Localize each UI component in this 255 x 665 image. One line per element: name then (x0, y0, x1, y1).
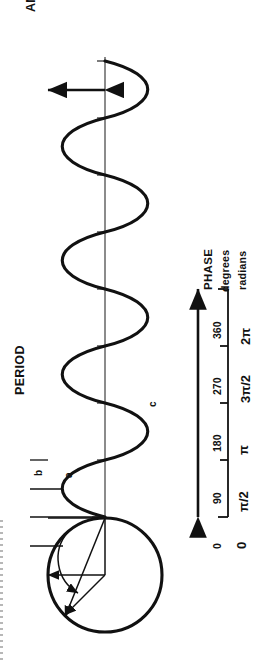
radian-tick-2pi: 2π (238, 328, 253, 345)
period-label: PERIOD (13, 345, 27, 395)
degree-tick-270: 270 (211, 377, 223, 395)
phase-label: PHASE (202, 249, 214, 290)
radian-tick-pi: π (236, 445, 251, 455)
degree-tick-0: 0 (211, 543, 223, 549)
degree-tick-180: 180 (211, 434, 223, 452)
point-label-b: b (33, 470, 44, 476)
amplitude-label: AMPLITUDE (24, 0, 38, 12)
radian-tick-3pi-over-2: 3π/2 (238, 375, 253, 403)
figure-canvas: AMPLITUDE PERIOD PHASE degrees radians 0… (0, 0, 255, 665)
degree-tick-90: 90 (211, 492, 223, 504)
radian-tick-pi-over-2: π/2 (236, 491, 251, 512)
radian-tick-0: 0 (234, 542, 249, 549)
point-label-a: a (63, 472, 74, 478)
phasor-circle (48, 518, 162, 632)
cropped-edge-text (0, 520, 3, 660)
point-label-c: c (147, 401, 158, 407)
degree-tick-360: 360 (211, 321, 223, 339)
degrees-label: degrees (219, 250, 231, 292)
radians-label: radians (236, 251, 248, 290)
